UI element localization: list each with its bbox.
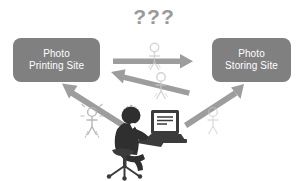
- user-at-computer-icon: [107, 106, 187, 181]
- node-photo-storing-site[interactable]: Photo Storing Site: [212, 38, 291, 82]
- node-storing-line2: Storing Site: [225, 60, 278, 73]
- node-printing-line1: Photo: [43, 48, 70, 61]
- ghost-user-icon: [208, 108, 219, 134]
- diagram-canvas: ???: [0, 0, 306, 181]
- node-printing-line2: Printing Site: [29, 60, 84, 73]
- ghost-user-icon: [149, 43, 161, 70]
- figure-layer: [0, 0, 306, 181]
- ghost-user-icon: [155, 73, 168, 99]
- node-storing-line1: Photo: [238, 48, 265, 61]
- ghost-user-icon: [81, 104, 104, 138]
- node-photo-printing-site[interactable]: Photo Printing Site: [13, 38, 100, 82]
